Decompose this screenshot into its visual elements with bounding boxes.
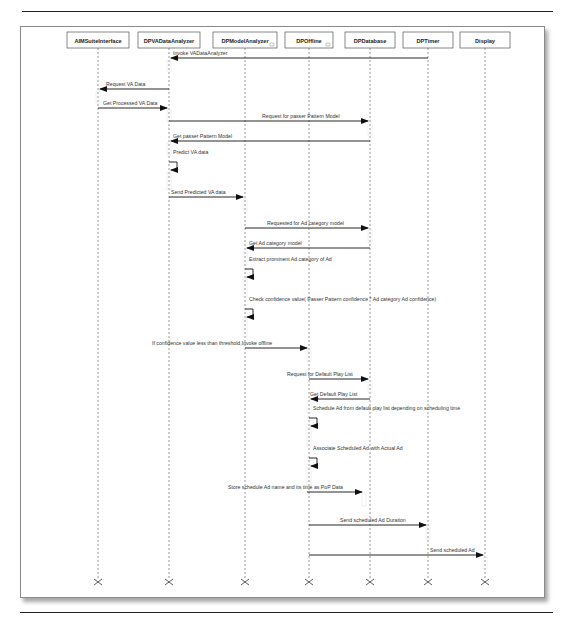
activation-bar xyxy=(307,401,311,413)
participant-label: DPTimer xyxy=(417,38,441,44)
participant-label: Display xyxy=(475,38,496,44)
message-label: Request VA Data xyxy=(106,81,146,87)
self-call-arrow xyxy=(309,458,317,466)
message-8: Requested for Ad category model xyxy=(245,220,368,228)
message-3: Get Processed VA Data xyxy=(98,100,167,108)
message-label: Store schedule Ad name and its time as P… xyxy=(228,484,343,490)
message-label: Extract prominent Ad category of Ad xyxy=(249,256,332,262)
participant-label: AIMSuiteInterface xyxy=(74,38,121,44)
message-16: Associate Scheduled Ad with Actual Ad xyxy=(309,445,403,466)
participant-label: DPModelAnalyzer xyxy=(221,38,269,44)
message-label: Get Ad category model xyxy=(249,240,302,246)
sequence-diagram: Invoke VADataAnalyzerRequest VA DataGet … xyxy=(0,0,576,617)
message-13: Request for Default Play List xyxy=(287,371,368,379)
destroy-icon xyxy=(241,579,249,585)
message-6: Predict VA data xyxy=(169,149,208,170)
message-2: Request VA Data xyxy=(100,81,169,89)
message-14: Get Default Play List xyxy=(310,391,370,399)
activation-bar xyxy=(483,557,487,569)
participant-dpdb: DPDatabase xyxy=(345,32,395,48)
message-label: Get passer Pattern Model xyxy=(173,133,232,139)
message-label: Request for passer Pattern Model xyxy=(262,113,340,119)
activation-bar xyxy=(362,494,366,506)
message-label: Requested for Ad category model xyxy=(267,220,344,226)
destroy-icon xyxy=(424,579,432,585)
self-call-arrow xyxy=(169,162,177,170)
message-label: Send scheduled Ad Duration xyxy=(340,517,406,523)
message-1: Invoke VADataAnalyzer xyxy=(171,50,428,58)
self-call-arrow xyxy=(245,309,253,317)
participant-label: DPDatabase xyxy=(354,38,387,44)
destroy-icon xyxy=(366,579,374,585)
message-5: Get passer Pattern Model xyxy=(171,133,370,141)
participant-dpt: DPTimer xyxy=(403,32,453,48)
message-17: Store schedule Ad name and its time as P… xyxy=(228,484,362,492)
participant-dpma: DPModelAnalyzer xyxy=(213,32,277,48)
participant-label: DPVADataAnalyzer xyxy=(144,38,195,44)
participant-dpva: DPVADataAnalyzer xyxy=(138,32,200,48)
message-9: Get Ad category model xyxy=(247,240,370,248)
destroy-icon xyxy=(94,579,102,585)
participant-aim: AIMSuiteInterface xyxy=(67,32,129,48)
message-15: Schedule Ad from default play list depen… xyxy=(309,405,460,426)
message-label: If confidence value less than threshold,… xyxy=(152,340,272,346)
destroy-icon xyxy=(481,579,489,585)
message-19: Send scheduled Ad xyxy=(309,547,483,555)
message-18: Send scheduled Ad Duration xyxy=(309,517,426,525)
message-label: Check confidence value( Passer Pattern c… xyxy=(249,296,436,302)
message-4: Request for passer Pattern Model xyxy=(169,113,368,121)
message-11: Check confidence value( Passer Pattern c… xyxy=(245,296,436,317)
self-call-arrow xyxy=(245,269,253,277)
message-12: If confidence value less than threshold,… xyxy=(152,340,307,348)
message-label: Get Processed VA Data xyxy=(103,100,158,106)
destroy-icon xyxy=(165,579,173,585)
message-label: Predict VA data xyxy=(173,149,208,155)
self-call-arrow xyxy=(309,418,317,426)
message-label: Request for Default Play List xyxy=(287,371,353,377)
message-label: Send Predicted VA data xyxy=(171,189,226,195)
participant-label: DPOffline xyxy=(296,38,321,44)
message-label: Get Default Play List xyxy=(310,391,358,397)
participant-dpoff: DPOffline xyxy=(285,32,333,48)
message-7: Send Predicted VA data xyxy=(169,189,243,197)
activation-bar xyxy=(368,381,372,393)
message-label: Associate Scheduled Ad with Actual Ad xyxy=(313,445,403,451)
message-label: Schedule Ad from default play list depen… xyxy=(313,405,460,411)
destroy-icon xyxy=(305,579,313,585)
participant-disp: Display xyxy=(460,32,510,48)
message-10: Extract prominent Ad category of Ad xyxy=(245,256,332,277)
message-label: Send scheduled Ad xyxy=(430,547,475,553)
message-label: Invoke VADataAnalyzer xyxy=(173,50,228,56)
